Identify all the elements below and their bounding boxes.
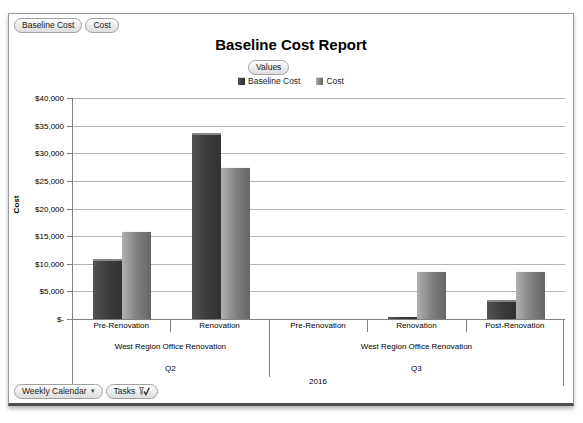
- y-axis-tick-label: $25,000: [35, 176, 64, 185]
- legend-item-cost: Cost: [316, 76, 343, 86]
- weekly-calendar-label: Weekly Calendar: [22, 386, 87, 396]
- gridline: [73, 209, 565, 210]
- quarter-label: Q3: [269, 364, 564, 373]
- bar-cost: [122, 230, 151, 319]
- y-axis-tick-label: $40,000: [35, 94, 64, 103]
- y-axis-tick-label: $30,000: [35, 149, 64, 158]
- category-label: Renovation: [170, 321, 268, 330]
- legend-label: Cost: [326, 76, 343, 86]
- legend-label: Baseline Cost: [248, 76, 300, 86]
- chart-legend: Baseline Cost Cost: [9, 76, 573, 86]
- y-axis-tick-label: $20,000: [35, 204, 64, 213]
- category-label: Renovation: [367, 321, 465, 330]
- gridline: [73, 153, 565, 154]
- y-axis-tick-label: $35,000: [35, 121, 64, 130]
- x-axis: Pre-RenovationRenovationWest Region Offi…: [72, 319, 564, 386]
- bar-cost: [221, 166, 250, 319]
- y-axis-title: Cost: [12, 120, 21, 290]
- x-axis-separator: [466, 319, 467, 332]
- y-axis-tick-label: $10,000: [35, 259, 64, 268]
- y-axis-tick: [67, 291, 72, 292]
- bar-cost: [417, 270, 446, 319]
- category-label: Pre-Renovation: [269, 321, 367, 330]
- y-axis-tick: [67, 126, 72, 127]
- bar-baseline-cost: [93, 259, 122, 319]
- x-axis-separator: [367, 319, 368, 332]
- bar-cost: [516, 270, 545, 319]
- x-axis-separator: [269, 319, 270, 377]
- x-axis-separator: [170, 319, 171, 332]
- y-axis-tick: [67, 236, 72, 237]
- category-label: Post-Renovation: [466, 321, 564, 330]
- gridline: [73, 181, 565, 182]
- tasks-chip[interactable]: Tasks: [106, 384, 159, 399]
- filter-check-icon: [139, 387, 150, 396]
- y-axis-tick-label: $5,000: [40, 287, 64, 296]
- values-chip[interactable]: Values: [248, 60, 289, 75]
- dropdown-arrow-icon: ▾: [91, 387, 95, 395]
- y-axis-tick: [67, 264, 72, 265]
- y-axis-tick: [67, 209, 72, 210]
- bar-baseline-cost: [487, 300, 516, 319]
- bar-baseline-cost: [388, 317, 417, 319]
- legend-swatch-baseline-cost: [238, 77, 245, 85]
- y-axis-tick-label: $-: [57, 315, 64, 324]
- field-chip-cost[interactable]: Cost: [85, 18, 118, 33]
- legend-item-baseline-cost: Baseline Cost: [238, 76, 300, 86]
- y-axis-tick: [67, 181, 72, 182]
- chart-title: Baseline Cost Report: [9, 36, 573, 53]
- footer-chip-row: Weekly Calendar ▾ Tasks: [14, 384, 158, 399]
- gridline: [73, 126, 565, 127]
- report-view: Baseline Cost Cost Baseline Cost Report …: [0, 0, 583, 423]
- project-group-label: West Region Office Renovation: [269, 342, 564, 351]
- plot-area: $-$5,000$10,000$15,000$20,000$25,000$30,…: [72, 98, 565, 320]
- project-group-label: West Region Office Renovation: [72, 342, 269, 351]
- tasks-label: Tasks: [114, 386, 136, 396]
- weekly-calendar-chip[interactable]: Weekly Calendar ▾: [14, 384, 103, 399]
- quarter-label: Q2: [72, 364, 269, 373]
- report-frame: Baseline Cost Cost Baseline Cost Report …: [8, 13, 574, 406]
- y-axis-tick-label: $15,000: [35, 232, 64, 241]
- category-label: Pre-Renovation: [72, 321, 170, 330]
- field-chip-row: Baseline Cost Cost: [14, 18, 119, 33]
- legend-swatch-cost: [316, 77, 323, 85]
- y-axis-tick: [67, 98, 72, 99]
- gridline: [73, 98, 565, 99]
- field-chip-baseline-cost[interactable]: Baseline Cost: [14, 18, 82, 33]
- y-axis-tick: [67, 153, 72, 154]
- bar-baseline-cost: [192, 133, 221, 319]
